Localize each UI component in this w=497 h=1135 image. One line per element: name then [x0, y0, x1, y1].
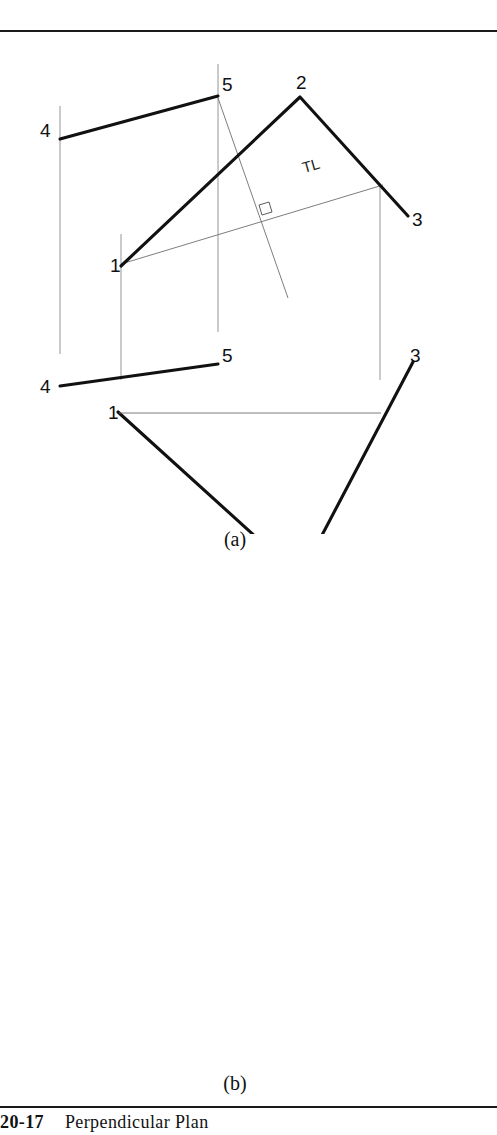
subfigure-b-label: (b): [205, 1072, 265, 1095]
caption-number: 20-17: [0, 1112, 44, 1132]
label-a-front-1: 1: [108, 402, 119, 423]
label-a-top-2: 2: [296, 72, 307, 93]
perpendicular-line-a: [218, 98, 288, 298]
label-a-top-1: 1: [110, 255, 121, 276]
tl-line-a: [121, 185, 383, 264]
right-angle-marker-a: [259, 202, 272, 215]
caption-text: Perpendicular Plan: [65, 1112, 209, 1132]
label-a-front-4: 4: [40, 376, 51, 397]
label-a-front-5: 5: [222, 345, 233, 366]
object-lines-a-front: [60, 362, 413, 534]
top-rule: [0, 30, 497, 32]
label-a-front-3: 3: [410, 345, 421, 366]
object-lines-a-top: [60, 96, 408, 266]
figure-a-drawing: 4 5 2 3 1 4 5 1 3 2 TL: [0, 34, 497, 534]
tl-label-a: TL: [300, 155, 322, 176]
figure-page: 4 5 2 3 1 4 5 1 3 2 TL (a): [0, 0, 497, 1135]
projection-lines-a: [60, 64, 380, 380]
label-a-top-5: 5: [222, 74, 233, 95]
label-a-top-4: 4: [40, 120, 51, 141]
subfigure-a-label: (a): [205, 528, 265, 551]
figure-caption: 20-17 Perpendicular Plan: [0, 1112, 497, 1133]
figure-b-drawing: 4 5 2 3 1 6 4 5 1 3 6 2 TL: [0, 560, 497, 1105]
label-a-top-3: 3: [412, 209, 423, 230]
bottom-rule: [0, 1106, 497, 1108]
